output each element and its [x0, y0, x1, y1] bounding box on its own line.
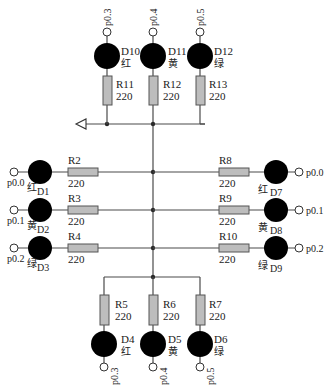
- pin-terminal: [295, 206, 303, 214]
- resistor-label: R10: [219, 230, 238, 242]
- led-icon: [28, 236, 52, 260]
- circuit-schematic: p0.3 D10 红 R11 220 p0.4 D11 黄 R12 220 p0…: [0, 0, 334, 389]
- led-icon: [140, 43, 166, 69]
- led-color-label: 绿: [214, 345, 224, 357]
- led-color-label: 红: [258, 183, 268, 195]
- led-icon: [264, 198, 288, 222]
- pin-label: p0.2: [7, 253, 25, 264]
- led-icon: [91, 331, 117, 357]
- top-branch-2: p0.4 D11 黄 R12 220: [140, 9, 187, 106]
- led-color-label: 绿: [27, 257, 37, 269]
- ground-icon: [76, 119, 86, 129]
- resistor-label: R11: [116, 78, 134, 90]
- resistor-value: 220: [209, 90, 226, 102]
- resistor-label: R7: [209, 298, 222, 310]
- resistor-icon: [68, 168, 98, 176]
- resistor-icon: [196, 295, 205, 325]
- led-label: D2: [37, 224, 49, 235]
- resistor-icon: [100, 295, 109, 325]
- pin-terminal: [196, 28, 204, 36]
- resistor-label: R4: [68, 230, 81, 242]
- left-branch-2: p0.1 黄 D2 R3 220: [7, 192, 155, 235]
- resistor-label: R13: [209, 78, 228, 90]
- pin-label: p0.4: [148, 9, 159, 27]
- led-color-label: 黄: [168, 345, 178, 357]
- top-group: p0.3 D10 红 R11 220 p0.4 D11 黄 R12 220 p0…: [76, 9, 233, 130]
- resistor-icon: [219, 206, 249, 214]
- pin-label: p0.2: [306, 243, 324, 254]
- pin-label: p0.3: [102, 9, 113, 27]
- led-label: D10: [121, 45, 140, 57]
- led-icon: [28, 198, 52, 222]
- led-label: D8: [270, 225, 282, 236]
- resistor-icon: [196, 76, 205, 105]
- led-icon: [140, 331, 166, 357]
- led-label: D3: [37, 262, 49, 273]
- right-branch-3: R10 220 绿 D9 p0.2: [153, 230, 324, 274]
- resistor-value: 220: [219, 253, 236, 265]
- right-group: R8 220 红 D7 p0.0 R9 220 黄 D8 p0.1 R10 22…: [153, 154, 324, 274]
- resistor-value: 220: [219, 215, 236, 227]
- pin-terminal: [10, 244, 18, 252]
- resistor-value: 220: [68, 253, 85, 265]
- junction-node: [151, 122, 155, 126]
- pin-label: p0.3: [109, 368, 120, 386]
- led-label: D11: [168, 45, 187, 57]
- led-color-label: 红: [121, 345, 131, 357]
- resistor-value: 220: [163, 310, 180, 322]
- left-group: p0.0 红 D1 R2 220 p0.1 黄 D2 R3 220 p0.2: [7, 154, 155, 273]
- right-branch-1: R8 220 红 D7 p0.0: [153, 154, 324, 198]
- resistor-icon: [149, 295, 158, 325]
- led-icon: [187, 331, 213, 357]
- top-branch-1: p0.3 D10 红 R11 220: [94, 9, 140, 125]
- led-color-label: 红: [121, 57, 131, 69]
- led-label: D5: [168, 333, 182, 345]
- resistor-label: R3: [68, 192, 81, 204]
- resistor-value: 220: [68, 215, 85, 227]
- led-icon: [264, 236, 288, 260]
- pin-label: p0.1: [306, 205, 324, 216]
- led-color-label: 黄: [168, 57, 178, 69]
- resistor-icon: [219, 168, 249, 176]
- pin-terminal: [149, 363, 157, 371]
- led-color-label: 绿: [258, 259, 268, 271]
- led-label: D6: [214, 333, 228, 345]
- pin-terminal: [100, 363, 108, 371]
- pin-terminal: [196, 363, 204, 371]
- resistor-label: R2: [68, 154, 81, 166]
- pin-terminal: [295, 168, 303, 176]
- resistor-icon: [68, 206, 98, 214]
- left-branch-1: p0.0 红 D1 R2 220: [7, 154, 155, 197]
- pin-label: p0.5: [195, 9, 206, 27]
- led-color-label: 黄: [258, 221, 268, 233]
- resistor-label: R5: [115, 298, 128, 310]
- led-icon: [187, 43, 213, 69]
- resistor-label: R12: [163, 78, 181, 90]
- led-label: D12: [214, 45, 233, 57]
- led-label: D4: [121, 333, 135, 345]
- resistor-icon: [68, 244, 98, 252]
- bottom-branch-2: R6 220 D5 黄 p0.4: [140, 277, 182, 385]
- top-branch-3: p0.5 D12 绿 R13 220: [187, 9, 233, 125]
- resistor-value: 220: [209, 310, 226, 322]
- resistor-label: R9: [219, 192, 232, 204]
- resistor-icon: [219, 244, 249, 252]
- pin-terminal: [10, 206, 18, 214]
- led-color-label: 红: [27, 181, 37, 193]
- left-branch-3: p0.2 绿 D3 R4 220: [7, 230, 155, 273]
- pin-terminal: [10, 168, 18, 176]
- bottom-group: R5 220 D4 红 p0.3 R6 220 D5 黄 p0.4 R7 220: [91, 275, 228, 385]
- bottom-branch-3: R7 220 D6 绿 p0.5: [187, 277, 228, 385]
- pin-label: p0.5: [205, 368, 216, 386]
- led-label: D1: [37, 186, 49, 197]
- resistor-icon: [149, 76, 158, 105]
- pin-label: p0.0: [7, 177, 25, 188]
- led-icon: [94, 43, 120, 69]
- resistor-icon: [103, 76, 112, 105]
- pin-terminal: [149, 28, 157, 36]
- resistor-value: 220: [68, 177, 85, 189]
- led-color-label: 黄: [27, 219, 37, 231]
- resistor-label: R6: [163, 298, 176, 310]
- led-icon: [264, 160, 288, 184]
- pin-label: p0.0: [306, 167, 324, 178]
